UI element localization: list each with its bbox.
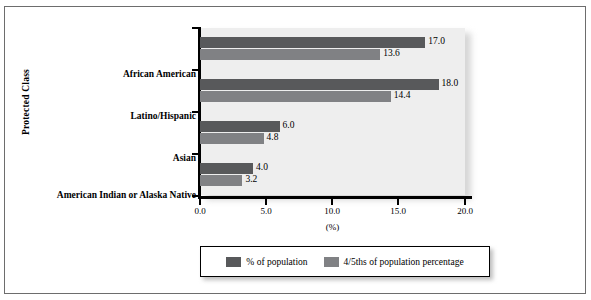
bar-0-0 — [200, 37, 425, 48]
y-axis-title: Protected Class — [21, 42, 31, 162]
bar-1-2 — [200, 133, 264, 144]
x-axis-tick-label: 20.0 — [445, 206, 485, 216]
bar-value-label: 13.6 — [383, 48, 400, 58]
x-axis-tick-label: 5.0 — [246, 206, 286, 216]
legend-label: % of population — [246, 257, 307, 267]
y-axis-category-labels: African American Latino/Hispanic Asian A… — [50, 28, 196, 195]
x-axis-line — [198, 196, 472, 199]
bar-1-1 — [200, 91, 391, 102]
legend-entry-population: % of population — [226, 257, 307, 267]
bar-1-3 — [200, 175, 242, 186]
bar-value-label: 4.0 — [256, 162, 268, 172]
x-axis-title: (%) — [200, 222, 465, 232]
category-label: African American — [56, 69, 196, 80]
x-axis-tick-label: 10.0 — [312, 206, 352, 216]
bar-0-3 — [200, 163, 253, 174]
chart-legend: % of population 4/5ths of population per… — [200, 246, 490, 277]
category-label: Asian — [56, 153, 196, 164]
bar-value-label: 18.0 — [442, 78, 459, 88]
x-axis-tick — [397, 199, 399, 205]
x-axis-tick — [331, 199, 333, 205]
bar-0-1 — [200, 79, 439, 90]
category-label: Latino/Hispanic — [56, 111, 196, 122]
bar-1-0 — [200, 49, 380, 60]
bar-value-label: 4.8 — [267, 132, 279, 142]
category-label: American Indian or Alaska Native — [56, 190, 196, 201]
x-axis-tick — [265, 199, 267, 205]
bar-value-label: 17.0 — [428, 36, 445, 46]
x-axis-tick-label: 0.0 — [180, 206, 220, 216]
bar-value-label: 3.2 — [245, 174, 257, 184]
x-axis-tick — [199, 199, 201, 205]
x-axis-tick-label: 15.0 — [378, 206, 418, 216]
bar-value-label: 14.4 — [394, 90, 411, 100]
legend-swatch-icon — [324, 257, 339, 267]
x-axis-tick — [464, 199, 466, 205]
legend-swatch-icon — [226, 257, 241, 267]
bar-value-label: 6.0 — [283, 120, 295, 130]
bar-0-2 — [200, 121, 280, 132]
chart-figure: 0.0 5.0 10.0 15.0 20.0 (%) Protected Cla… — [0, 0, 591, 300]
legend-entry-four-fifths: 4/5ths of population percentage — [324, 257, 464, 267]
legend-label: 4/5ths of population percentage — [344, 257, 464, 267]
